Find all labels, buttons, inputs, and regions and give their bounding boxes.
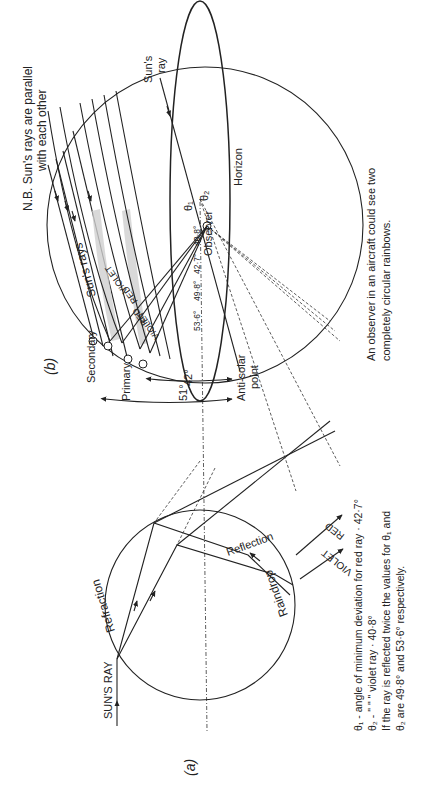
theta1-label: θ₁ xyxy=(182,201,194,211)
angle-40-8: 40·8° xyxy=(192,226,202,246)
suns-ray-label-2: ray xyxy=(155,57,167,73)
legend-line-1: θ₁ - angle of minimum deviation for red … xyxy=(352,499,364,731)
figure-a-label: (a) xyxy=(182,759,198,776)
angle-51-label: 51° xyxy=(177,384,189,401)
rainbow-diagram: (a) SUN'S RAY Refraction Reflection RED … xyxy=(0,0,423,811)
horizon-label: Horizon xyxy=(232,148,244,186)
axis-line xyxy=(200,199,207,731)
anti-solar-label-1: Anti-solar xyxy=(235,354,247,401)
legend-line-2: θ₂ - " " " violet ray · 40·8° xyxy=(366,615,378,731)
caption-line-2: completely circular rainbows. xyxy=(380,220,392,361)
violet-label: VIOLET xyxy=(319,548,354,579)
raindrop-label: Raindrop xyxy=(261,568,291,619)
anti-solar-label-2: point xyxy=(248,365,260,389)
angle-49-8: 49·8° xyxy=(192,281,202,301)
caption-line-1: An observer in an aircraft could see two xyxy=(365,168,377,361)
refraction-label: Refraction xyxy=(88,578,117,634)
diagram-stage: (a) SUN'S RAY Refraction Reflection RED … xyxy=(0,0,423,811)
drop-primary-violet xyxy=(139,360,147,368)
horizon-ellipse xyxy=(170,1,230,401)
legend-line-4: θ₂ are 49·8° and 53·6° respectively. xyxy=(394,566,406,731)
angle-42-7: 42·7° xyxy=(192,254,202,274)
theta2-label: θ₂ xyxy=(198,191,210,201)
angle-53-6: 53·6° xyxy=(192,311,202,331)
figure-b: (b) Horizon Observer Sun's ray Sun's ray… xyxy=(21,1,392,403)
figure-b-label: (b) xyxy=(42,358,58,375)
note-line-1: N.B. Sun's rays are parallel xyxy=(21,66,35,211)
drop-secondary-red xyxy=(104,342,112,350)
suns-ray-label-1: Sun's xyxy=(142,55,154,83)
secondary-label: Secondary xyxy=(85,330,97,383)
primary-label: Primary xyxy=(120,363,132,401)
reflection-label: Reflection xyxy=(225,530,275,558)
suns-ray-label: SUN'S RAY xyxy=(102,661,114,719)
legend-line-3: If the ray is reflected twice the values… xyxy=(380,511,392,731)
red-label: RED xyxy=(323,520,346,542)
exit-ray-red xyxy=(154,431,335,523)
figure-a-legend: θ₁ - angle of minimum deviation for red … xyxy=(352,499,406,731)
drop-primary-red xyxy=(124,355,132,363)
note-line-2: with each other xyxy=(35,90,49,172)
